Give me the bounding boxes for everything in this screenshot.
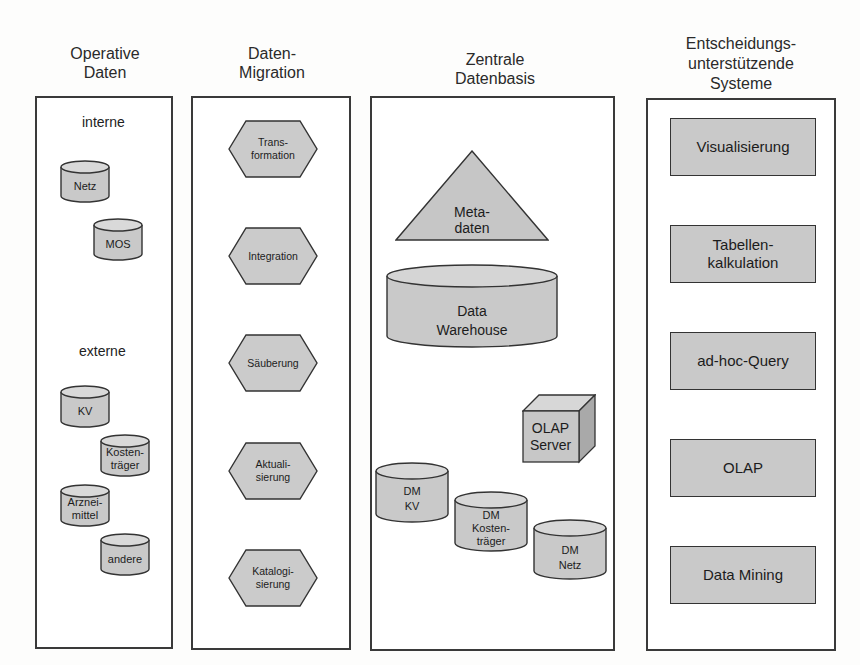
system-data-mining: Data Mining [670,546,816,604]
datamart-label: DM Kosten- träger [454,509,528,548]
db-kv: KV [60,385,110,429]
step-label: Katalogi- sierung [228,549,318,607]
db-kostentraeger: Kosten- träger [100,434,150,478]
step-saeuberung: Säuberung [228,334,318,392]
step-katalogisierung: Katalogi- sierung [228,549,318,607]
db-andere: andere [100,533,150,577]
column-title-decision-support: Entscheidungs- unterstützende Systeme [646,34,836,94]
column-title-migration: Daten- Migration [192,44,352,82]
olap-server-label: OLAP Server [522,420,579,454]
panel-operative-data: interne Netz MOS externe KV Kosten- träg… [35,96,173,649]
datamart-label: DM Netz [533,543,607,573]
column-title-central: Zentrale Datenbasis [410,50,580,88]
datamart-kv: DM KV [375,462,449,524]
db-mos: MOS [93,218,143,262]
db-netz: Netz [60,160,110,204]
step-integration: Integration [228,227,318,285]
olap-server-cube: OLAP Server [522,394,596,464]
step-aktualisierung: Aktuali- sierung [228,442,318,500]
db-arzneimittel: Arznei- mittel [60,484,110,528]
db-label: KV [60,405,110,418]
step-label: Aktuali- sierung [228,442,318,500]
datamart-label: DM KV [375,484,449,514]
db-label: Kosten- träger [100,446,150,472]
system-visualisierung: Visualisierung [670,118,816,176]
datamart-kostentraeger: DM Kosten- träger [454,491,528,553]
step-label: Trans- formation [228,120,318,178]
db-label: andere [100,553,150,566]
metadata-label: Meta- daten [395,204,549,236]
metadata-triangle: Meta- daten [395,150,549,242]
step-transformation: Trans- formation [228,120,318,178]
step-label: Säuberung [228,334,318,392]
system-olap: OLAP [670,439,816,497]
column-title-operative: Operative Daten [35,44,175,82]
datamart-netz: DM Netz [533,519,607,581]
step-label: Integration [228,227,318,285]
panel-decision-support: Visualisierung Tabellen- kalkulation ad-… [646,98,836,651]
external-group-label: externe [79,343,126,359]
data-warehouse: Data Warehouse [386,264,558,348]
internal-group-label: interne [82,114,125,130]
system-ad-hoc-query: ad-hoc-Query [670,332,816,390]
panel-data-migration: Trans- formation Integration Säuberung A… [191,96,351,650]
warehouse-label: Data Warehouse [386,302,558,340]
db-label: Arznei- mittel [60,496,110,522]
system-tabellenkalkulation: Tabellen- kalkulation [670,225,816,283]
db-label: Netz [60,180,110,193]
db-label: MOS [93,238,143,251]
panel-central-database: Meta- daten Data Warehouse OLAP Server D… [370,96,615,651]
